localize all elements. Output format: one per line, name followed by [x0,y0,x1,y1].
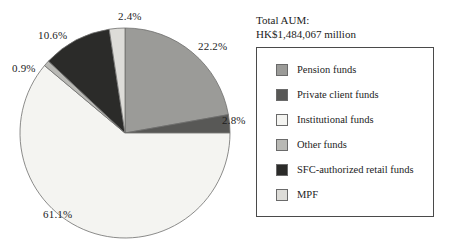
legend-box: Pension funds Private client funds Insti… [256,47,434,217]
legend-item-sfc-authorized-retail-funds[interactable]: SFC-authorized retail funds [266,157,425,182]
legend-swatch-sfc-authorized-retail-funds [276,164,288,176]
legend-label-pension-funds: Pension funds [297,64,356,76]
legend-label-other-funds: Other funds [297,139,347,151]
slice-label-other-funds: 0.9% [12,62,36,74]
total-aum-value: HK$1,484,067 million [256,28,452,42]
legend-item-other-funds[interactable]: Other funds [266,132,425,157]
total-aum-title: Total AUM: HK$1,484,067 million [256,14,452,41]
pie-chart-area: 2.4% 22.2% 2.8% 61.1% 0.9% 10.6% [0,0,250,244]
slice-label-sfc-authorized-retail-funds: 10.6% [38,29,67,41]
total-aum-label: Total AUM: [256,14,452,28]
slice-label-private-client-funds: 2.8% [222,114,246,126]
slice-label-pension-funds: 22.2% [198,40,227,52]
legend-swatch-institutional-funds [276,114,288,126]
legend-item-institutional-funds[interactable]: Institutional funds [266,107,425,132]
legend-label-institutional-funds: Institutional funds [297,114,374,126]
legend-swatch-other-funds [276,139,288,151]
legend-label-private-client-funds: Private client funds [297,89,379,101]
legend-label-sfc-authorized-retail-funds: SFC-authorized retail funds [297,164,414,176]
slice-label-institutional-funds: 61.1% [43,208,72,220]
pie-chart-figure: 2.4% 22.2% 2.8% 61.1% 0.9% 10.6% Total A… [0,0,457,244]
legend-block: Total AUM: HK$1,484,067 million Pension … [256,14,452,217]
legend-swatch-pension-funds [276,64,288,76]
legend-item-private-client-funds[interactable]: Private client funds [266,82,425,107]
slice-label-mpf: 2.4% [118,10,142,22]
legend-item-pension-funds[interactable]: Pension funds [266,57,425,82]
legend-label-mpf: MPF [297,189,318,201]
legend-item-mpf[interactable]: MPF [266,182,425,207]
legend-swatch-mpf [276,189,288,201]
legend-swatch-private-client-funds [276,89,288,101]
